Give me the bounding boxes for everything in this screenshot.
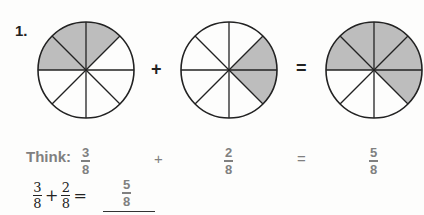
equation-plus: +: [45, 186, 58, 205]
answer-fraction[interactable]: 5 8: [122, 178, 131, 208]
numerator: 3: [33, 181, 41, 194]
think-plus: +: [154, 150, 163, 167]
equation: 3 8 + 2 8 =: [33, 181, 90, 210]
numerator: 5: [123, 178, 130, 191]
denominator: 8: [225, 163, 232, 176]
denominator: 8: [123, 195, 130, 208]
fraction-circle-2: [181, 22, 277, 118]
fraction-circle-3: [326, 22, 422, 118]
equals-sign: =: [296, 58, 307, 79]
think-label: Think:: [26, 148, 71, 165]
fraction-circles: [0, 0, 424, 140]
think-fraction-a: 3 8: [81, 146, 90, 176]
plus-sign: +: [151, 59, 162, 80]
numerator: 2: [62, 181, 70, 194]
shaded-sector: [229, 70, 277, 104]
fraction-circle-1: [38, 22, 134, 118]
think-fraction-b: 2 8: [224, 146, 233, 176]
numerator: 2: [225, 146, 232, 159]
numerator: 5: [370, 146, 377, 159]
answer-line: [103, 211, 155, 212]
equation-equals: =: [73, 186, 86, 205]
think-fraction-c: 5 8: [369, 146, 378, 176]
numerator: 3: [82, 146, 89, 159]
denominator: 8: [33, 197, 41, 210]
denominator: 8: [82, 163, 89, 176]
equation-fraction-a: 3 8: [33, 181, 42, 210]
denominator: 8: [370, 163, 377, 176]
shaded-sector: [374, 70, 422, 104]
shaded-sector: [229, 36, 277, 70]
think-equals: =: [297, 150, 306, 167]
shaded-sector: [86, 22, 120, 70]
equation-fraction-b: 2 8: [61, 181, 70, 210]
denominator: 8: [62, 197, 70, 210]
